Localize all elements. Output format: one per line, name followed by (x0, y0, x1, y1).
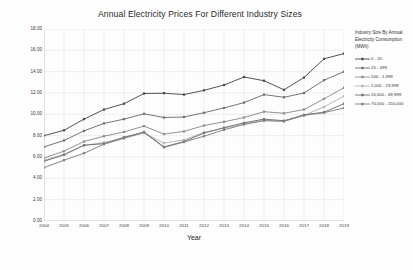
data-point-marker (283, 112, 285, 114)
data-point-marker (243, 102, 245, 104)
legend-label: 500 - 1,999 (371, 74, 393, 79)
data-point-marker (103, 122, 105, 124)
data-point-marker (143, 125, 145, 127)
legend-line-swatch-icon (355, 92, 370, 98)
legend-entries: 0 - 2020 - 499500 - 1,9992,000 - 19,9992… (355, 56, 413, 107)
data-point-marker (83, 152, 85, 154)
data-point-marker (163, 146, 165, 148)
data-point-marker (203, 132, 205, 134)
data-point-marker (323, 98, 325, 100)
legend-item-6[interactable]: 70,000 - 150,000 (355, 101, 413, 107)
y-tick-label: 8.00 (20, 133, 42, 138)
plot-svg (44, 29, 344, 221)
data-point-marker (303, 76, 305, 78)
data-point-marker (243, 123, 245, 125)
data-point-marker (323, 79, 325, 81)
series-line (44, 104, 344, 162)
data-point-marker (63, 150, 65, 152)
data-point-marker (343, 52, 344, 54)
x-axis-label: Year (44, 234, 344, 241)
y-tick-label: 2.00 (20, 197, 42, 202)
legend-line-swatch-icon (355, 65, 370, 71)
legend: Industry Size By Annual Electricity Cons… (355, 30, 413, 107)
data-point-marker (263, 80, 265, 82)
data-point-marker (243, 76, 245, 78)
legend-line-swatch-icon (355, 83, 370, 89)
chart-canvas: Annual Electricity Prices For Different … (0, 0, 413, 270)
legend-line-swatch-icon (355, 56, 370, 62)
legend-label: 20 - 499 (371, 65, 387, 70)
axis-lines (44, 29, 344, 221)
data-point-marker (223, 129, 225, 131)
data-point-marker (263, 111, 265, 113)
data-point-marker (183, 130, 185, 132)
data-point-marker (343, 95, 344, 97)
legend-title: Industry Size By Annual Electricity Cons… (355, 30, 411, 51)
data-point-marker (303, 114, 305, 116)
legend-label: 70,000 - 150,000 (371, 101, 404, 106)
data-point-marker (83, 140, 85, 142)
x-tick-label: 2019 (332, 223, 356, 228)
data-point-marker (223, 107, 225, 109)
data-point-marker (83, 130, 85, 132)
data-point-marker (223, 84, 225, 86)
data-point-marker (123, 137, 125, 139)
y-tick-label: 14.00 (20, 69, 42, 74)
data-point-marker (123, 118, 125, 120)
series-5 (44, 103, 344, 163)
series-line (44, 54, 344, 136)
data-point-marker (343, 71, 344, 73)
chart-title: Annual Electricity Prices For Different … (55, 9, 345, 19)
data-point-marker (103, 135, 105, 137)
legend-item-5[interactable]: 20,000 - 69,999 (355, 92, 413, 98)
data-point-marker (223, 127, 225, 129)
data-point-marker (183, 94, 185, 96)
data-point-marker (203, 124, 205, 126)
data-point-marker (143, 92, 145, 94)
legend-item-3[interactable]: 500 - 1,999 (355, 74, 413, 80)
data-point-marker (163, 92, 165, 94)
series-3 (44, 87, 344, 160)
data-point-marker (183, 116, 185, 118)
data-point-marker (263, 120, 265, 122)
legend-item-2[interactable]: 20 - 499 (355, 65, 413, 71)
y-tick-label: 4.00 (20, 175, 42, 180)
y-axis-ticks: 0.002.004.006.008.0010.0012.0014.0016.00… (16, 29, 42, 221)
data-point-marker (203, 89, 205, 91)
data-point-marker (303, 92, 305, 94)
data-point-marker (243, 116, 245, 118)
data-point-marker (323, 112, 325, 114)
data-point-marker (343, 103, 344, 105)
data-point-marker (343, 107, 344, 109)
y-tick-label: 16.00 (20, 47, 42, 52)
gridlines (44, 29, 344, 221)
data-point-marker (103, 108, 105, 110)
legend-item-4[interactable]: 2,000 - 19,999 (355, 83, 413, 89)
data-point-marker (283, 96, 285, 98)
plot-area (44, 29, 344, 221)
y-tick-label: 18.00 (20, 26, 42, 31)
data-point-marker (303, 108, 305, 110)
series-1 (44, 52, 344, 136)
data-point-marker (123, 103, 125, 105)
data-point-marker (203, 135, 205, 137)
data-point-marker (63, 154, 65, 156)
data-point-marker (283, 89, 285, 91)
series-layer (44, 52, 344, 168)
legend-item-1[interactable]: 0 - 20 (355, 56, 413, 62)
legend-label: 2,000 - 19,999 (371, 83, 399, 88)
data-point-marker (283, 120, 285, 122)
data-point-marker (203, 112, 205, 114)
data-point-marker (163, 116, 165, 118)
data-point-marker (123, 131, 125, 133)
data-point-marker (163, 133, 165, 135)
legend-label: 20,000 - 69,999 (371, 92, 401, 97)
data-point-marker (83, 144, 85, 146)
data-point-marker (343, 87, 344, 89)
data-point-marker (323, 58, 325, 60)
data-point-marker (183, 141, 185, 143)
legend-label: 0 - 20 (371, 56, 382, 61)
series-line (44, 88, 344, 158)
data-point-marker (63, 129, 65, 131)
data-point-marker (63, 139, 65, 141)
